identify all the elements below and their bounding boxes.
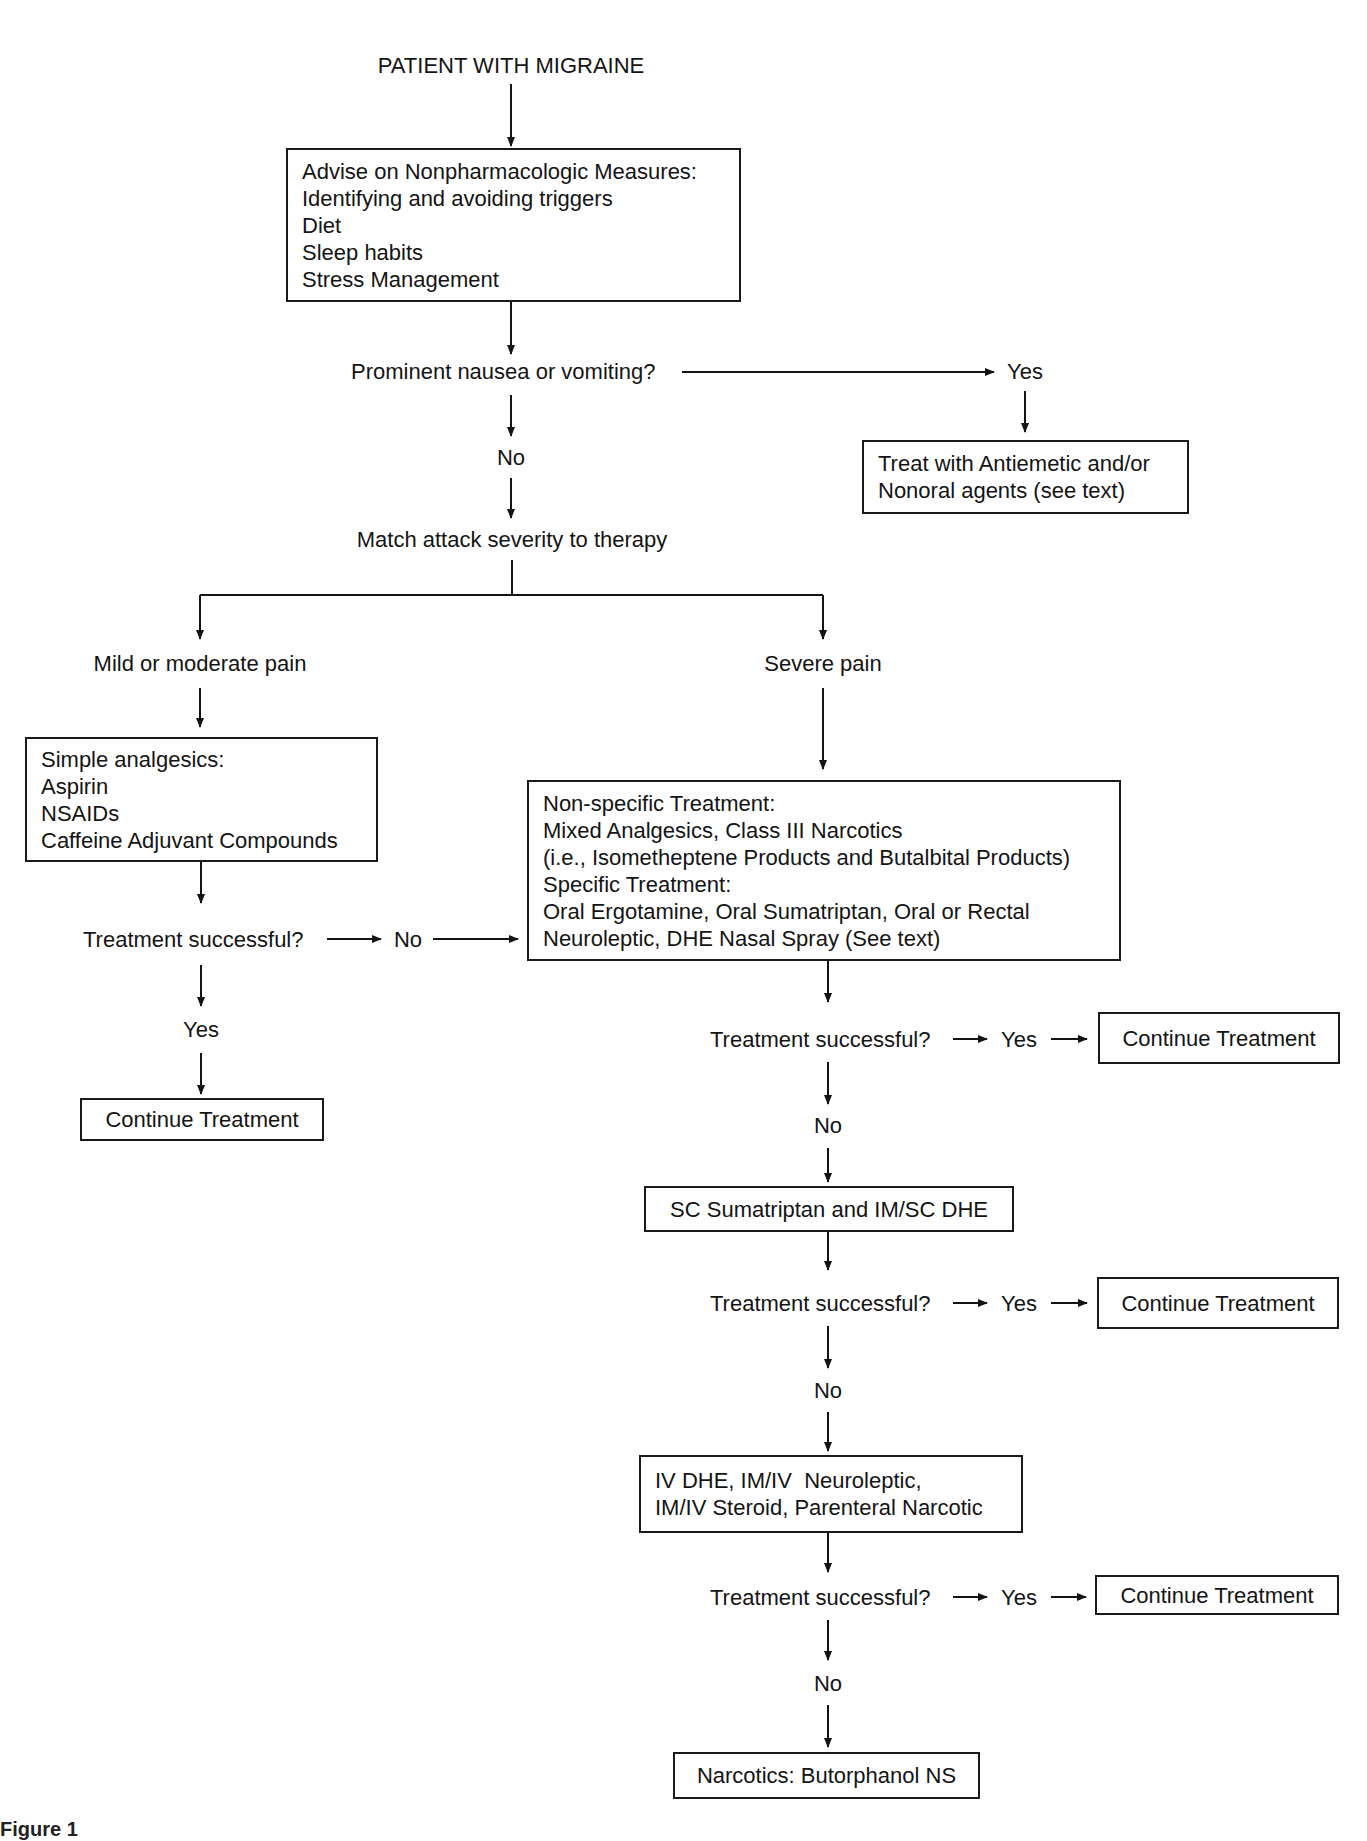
box-line: Sleep habits [302,239,739,266]
narcotics-butorphanol-box: Narcotics: Butorphanol NS [673,1752,980,1799]
box-line: SC Sumatriptan and IM/SC DHE [670,1196,988,1223]
box-line: Caffeine Adjuvant Compounds [41,827,376,854]
nonspecific-specific-treatment-box: Non-specific Treatment: Mixed Analgesics… [527,780,1121,961]
box-line: IV DHE, IM/IV Neuroleptic, [655,1467,1021,1494]
step3-continue-treatment-box: Continue Treatment [1095,1575,1339,1615]
mild-treatment-question: Treatment successful? [83,926,304,953]
box-line: NSAIDs [41,800,376,827]
step3-question: Treatment successful? [710,1584,931,1611]
box-line: Continue Treatment [1121,1290,1314,1317]
box-line: Narcotics: Butorphanol NS [697,1762,956,1789]
step1-question: Treatment successful? [710,1026,931,1053]
box-line: Diet [302,212,739,239]
match-severity-step: Match attack severity to therapy [357,526,668,553]
box-line: Advise on Nonpharmacologic Measures: [302,158,739,185]
box-line: Mixed Analgesics, Class III Narcotics [543,817,1119,844]
antiemetic-box: Treat with Antiemetic and/or Nonoral age… [862,440,1189,514]
box-line: Oral Ergotamine, Oral Sumatriptan, Oral … [543,898,1119,925]
advise-nonpharmacologic-box: Advise on Nonpharmacologic Measures: Ide… [286,148,741,302]
box-line: Neuroleptic, DHE Nasal Spray (See text) [543,925,1119,952]
box-line: Continue Treatment [105,1106,298,1133]
step2-continue-treatment-box: Continue Treatment [1097,1277,1339,1329]
step2-question: Treatment successful? [710,1290,931,1317]
step1-no-label: No [814,1112,842,1139]
step3-yes-label: Yes [1001,1584,1037,1611]
step1-continue-treatment-box: Continue Treatment [1098,1012,1340,1064]
box-line: Stress Management [302,266,739,293]
nausea-yes-label: Yes [1007,358,1043,385]
box-line: Specific Treatment: [543,871,1119,898]
box-line: IM/IV Steroid, Parenteral Narcotic [655,1494,1021,1521]
mild-pain-label: Mild or moderate pain [94,650,307,677]
step2-no-label: No [814,1377,842,1404]
box-line: Continue Treatment [1120,1582,1313,1609]
box-line: Nonoral agents (see text) [878,477,1187,504]
step3-no-label: No [814,1670,842,1697]
figure-caption: Figure 1 [0,1818,78,1841]
sc-sumatriptan-dhe-box: SC Sumatriptan and IM/SC DHE [644,1186,1014,1232]
box-line: Continue Treatment [1122,1025,1315,1052]
box-line: (i.e., Isometheptene Products and Butalb… [543,844,1119,871]
nausea-no-label: No [497,444,525,471]
mild-no-label: No [394,926,422,953]
step1-yes-label: Yes [1001,1026,1037,1053]
start-node: PATIENT WITH MIGRAINE [378,52,644,79]
mild-continue-treatment-box: Continue Treatment [80,1098,324,1141]
box-line: Non-specific Treatment: [543,790,1119,817]
step2-yes-label: Yes [1001,1290,1037,1317]
iv-dhe-neuroleptic-box: IV DHE, IM/IV Neuroleptic, IM/IV Steroid… [639,1455,1023,1533]
box-line: Identifying and avoiding triggers [302,185,739,212]
box-line: Simple analgesics: [41,746,376,773]
nausea-question: Prominent nausea or vomiting? [351,358,656,385]
box-line: Aspirin [41,773,376,800]
box-line: Treat with Antiemetic and/or [878,450,1187,477]
simple-analgesics-box: Simple analgesics: Aspirin NSAIDs Caffei… [25,737,378,862]
mild-yes-label: Yes [183,1016,219,1043]
severe-pain-label: Severe pain [764,650,881,677]
